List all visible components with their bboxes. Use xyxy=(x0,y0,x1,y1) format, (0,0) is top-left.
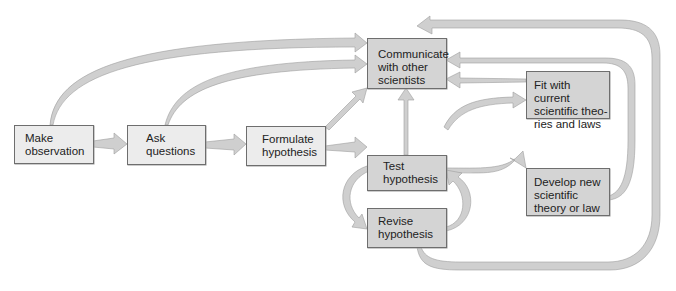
arrow-revise-to-communicate xyxy=(417,16,660,270)
arrow-observation-to-communicate xyxy=(50,33,367,125)
arrow-observation-to-questions xyxy=(93,133,127,154)
node-test-hypothesis: Test hypothesis xyxy=(367,155,447,191)
arrow-questions-to-formulate xyxy=(205,134,246,155)
node-communicate: Communicate with other scientists xyxy=(367,38,447,89)
arrows-layer xyxy=(0,0,676,291)
arrow-formulate-to-communicate xyxy=(325,88,367,130)
node-formulate-hypothesis: Formulate hypothesis xyxy=(246,126,326,166)
node-label: Formulate hypothesis xyxy=(262,133,325,159)
arrow-test-to-revise xyxy=(343,166,369,229)
node-label: Test hypothesis xyxy=(383,160,446,186)
node-label: Develop new scientific theory or law xyxy=(534,176,609,215)
arrow-fit-to-communicate xyxy=(446,72,526,88)
arrow-formulate-to-test xyxy=(325,137,367,158)
node-develop-new: Develop new scientific theory or law xyxy=(526,168,610,216)
arrow-revise-to-test xyxy=(446,170,471,231)
node-label: Ask questions xyxy=(146,132,205,158)
arrow-test-to-develop xyxy=(446,151,526,173)
arrow-test-to-communicate xyxy=(398,88,414,155)
node-label: Fit with current scientific theo- ries a… xyxy=(534,79,609,131)
node-label: Make observation xyxy=(25,132,93,158)
arrow-test-to-fit xyxy=(444,92,526,130)
node-label: Revise hypothesis xyxy=(378,215,446,241)
node-ask-questions: Ask questions xyxy=(127,125,206,165)
node-revise-hypothesis: Revise hypothesis xyxy=(367,208,447,248)
node-fit-current: Fit with current scientific theo- ries a… xyxy=(526,71,610,119)
node-label: Communicate with other scientists xyxy=(378,48,446,87)
node-make-observation: Make observation xyxy=(14,125,94,164)
arrow-questions-to-communicate xyxy=(165,55,367,125)
